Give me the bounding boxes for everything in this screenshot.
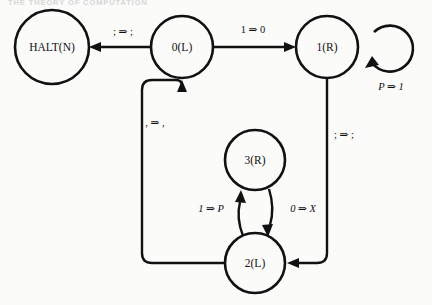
- edge-3-to-2: 0 ⇒ X: [262, 189, 316, 237]
- edge-1-to-2-line: [293, 78, 327, 263]
- arrowhead-into-2-from-1: [287, 258, 299, 268]
- arrowhead-into-3: [235, 190, 246, 203]
- edge-2-to-3-line: [239, 202, 243, 236]
- edge-1-to-2: ; ⇒ ;: [287, 78, 354, 268]
- edge-label-0-to-halt: ; ⇒ ;: [113, 26, 133, 37]
- edge-2-to-0-line: [142, 80, 225, 263]
- arrowhead-into-halt: [89, 42, 101, 52]
- edge-0-to-1: 1 ⇒ 0: [213, 24, 296, 52]
- edge-label-1-to-2: ; ⇒ ;: [334, 129, 354, 140]
- edge-label-2-to-3: 1 ⇒ P: [198, 203, 224, 214]
- node-halt[interactable]: HALT(N): [15, 10, 89, 84]
- edge-0-to-halt: ; ⇒ ;: [89, 26, 151, 52]
- node-state-2-label: 2(L): [245, 257, 266, 270]
- edge-label-2-to-0: , ⇒ ,: [145, 117, 164, 128]
- node-state-2[interactable]: 2(L): [225, 233, 285, 293]
- node-state-3-label: 3(R): [244, 154, 265, 167]
- edge-label-1-self-loop: P ⇒ 1: [377, 81, 404, 92]
- node-state-3[interactable]: 3(R): [225, 130, 285, 190]
- diagram-page: THE THEORY OF COMPUTATION ; ⇒ ; 1 ⇒ 0 P …: [0, 0, 432, 305]
- edge-label-0-to-1: 1 ⇒ 0: [241, 24, 266, 35]
- edge-2-to-0: , ⇒ ,: [142, 80, 225, 263]
- state-transition-diagram: ; ⇒ ; 1 ⇒ 0 P ⇒ 1 ; ⇒ ; , ⇒ ,: [0, 0, 432, 305]
- node-state-0[interactable]: 0(L): [151, 16, 213, 78]
- edge-3-to-2-line: [269, 189, 272, 225]
- arrowhead-into-0: [177, 80, 187, 92]
- arrowhead-into-1: [284, 42, 296, 52]
- edge-label-3-to-2: 0 ⇒ X: [290, 203, 316, 214]
- node-state-0-label: 0(L): [172, 41, 193, 54]
- edge-2-to-3: 1 ⇒ P: [198, 190, 246, 236]
- node-state-1-label: 1(R): [316, 41, 337, 54]
- edge-1-self-loop: P ⇒ 1: [365, 26, 413, 93]
- node-state-1[interactable]: 1(R): [296, 16, 358, 78]
- node-halt-label: HALT(N): [29, 41, 75, 54]
